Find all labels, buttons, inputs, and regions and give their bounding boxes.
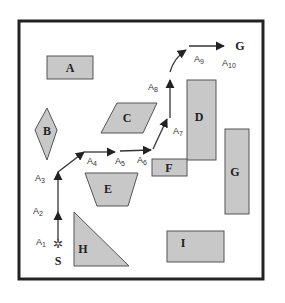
- obstacle-f: F: [152, 159, 187, 176]
- svg-text:A: A: [66, 61, 75, 75]
- svg-text:I: I: [181, 236, 186, 250]
- obstacle-a: A: [47, 56, 93, 79]
- svg-text:F: F: [165, 161, 172, 175]
- svg-text:S: S: [55, 254, 62, 268]
- svg-text:G: G: [230, 165, 239, 179]
- obstacle-i: I: [167, 231, 224, 262]
- svg-text:D: D: [195, 110, 204, 124]
- svg-text:B: B: [43, 124, 51, 138]
- path-planning-diagram: A B C D E F G H I: [0, 0, 285, 303]
- svg-text:H: H: [78, 242, 88, 256]
- obstacle-d: D: [187, 80, 216, 160]
- star-burst-icon: ✲: [53, 237, 63, 251]
- obstacle-g: G: [225, 129, 249, 214]
- svg-text:E: E: [104, 182, 112, 196]
- svg-text:C: C: [123, 111, 132, 125]
- goal-label: G: [235, 39, 244, 53]
